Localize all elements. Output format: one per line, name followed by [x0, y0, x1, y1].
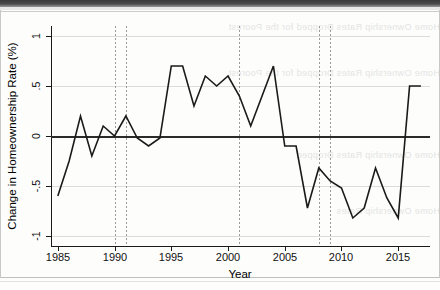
- scan-top-shadow-band: [0, 0, 440, 7]
- y-axis-title: Change in Homeownership Rate (%): [6, 42, 18, 229]
- page-bottom-rule-2: [0, 281, 440, 282]
- scanned-page: Home Ownership Rates Dropped for the Poo…: [0, 0, 440, 290]
- homeownership-change-line: [58, 66, 421, 218]
- chart-canvas: 1.50-.5-1 1985199019952000200520102015 C…: [0, 10, 440, 278]
- data-series-layer: [0, 10, 440, 278]
- x-axis-title: Year: [228, 268, 251, 280]
